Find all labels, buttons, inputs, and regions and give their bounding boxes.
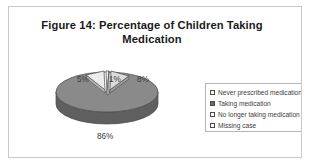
legend-item-taking-medication: Taking medication [210, 98, 302, 109]
pie-chart-plot-area: 5% 1% 8% 86% [9, 62, 205, 158]
pie-label-never-prescribed: 86% [97, 132, 113, 141]
pie-label-taking-medication: 8% [137, 75, 149, 84]
legend-item-no-longer-taking-medication: No longer taking medication [210, 109, 302, 120]
legend-item-label: Missing case [218, 122, 256, 129]
pie-label-no-longer-taking: 5% [77, 75, 89, 84]
legend-swatch-icon [210, 90, 215, 95]
legend-item-label: Never prescribed medication [218, 89, 302, 96]
pie-label-missing-case: 1% [109, 75, 121, 84]
legend-item-label: No longer taking medication [218, 111, 300, 118]
legend-item-missing-case: Missing case [210, 120, 302, 131]
legend-swatch-icon [210, 112, 215, 117]
legend-swatch-icon [210, 101, 215, 106]
chart-title: Figure 14: Percentage of Children Taking… [27, 18, 277, 46]
legend-item-label: Taking medication [218, 100, 271, 107]
chart-legend: Never prescribed medication Taking medic… [205, 83, 302, 132]
legend-item-never-prescribed-medication: Never prescribed medication [210, 87, 302, 98]
figure-frame: Figure 14: Percentage of Children Taking… [8, 6, 302, 158]
legend-swatch-icon [210, 123, 215, 128]
